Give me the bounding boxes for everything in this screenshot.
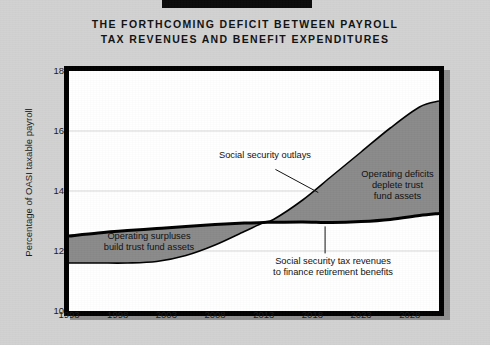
annotation-deficit-line-1: Operating deficits (361, 169, 433, 179)
annotation-social-security-outlays: Social security outlays (200, 150, 330, 161)
page-title-line-2: TAX REVENUES AND BENEFIT EXPENDITURES (0, 32, 490, 47)
x-tick-2013: 2013 (244, 309, 284, 320)
annotation-deficit-line-2: deplete trust (372, 180, 423, 190)
page-title-line-1: THE FORTHCOMING DEFICIT BETWEEN PAYROLL (92, 18, 398, 30)
y-tick-16: 16 (42, 126, 64, 135)
page-title: THE FORTHCOMING DEFICIT BETWEEN PAYROLL … (0, 17, 490, 47)
y-tick-14: 14 (42, 186, 64, 195)
annotation-surplus-line-2: build trust fund assets (104, 242, 194, 252)
annotation-deficit-line-3: fund assets (374, 191, 422, 201)
x-tick-2008: 2008 (195, 309, 235, 320)
y-axis-tick-labels: 1816141210 (40, 0, 64, 345)
annotation-revenues-line-1: Social security tax revenues (275, 256, 391, 266)
x-tick-1993: 1993 (49, 309, 89, 320)
y-tick-12: 12 (42, 246, 64, 255)
x-tick-1998: 1998 (98, 309, 138, 320)
leader-line-outlays (275, 169, 318, 192)
y-tick-18: 18 (42, 66, 64, 75)
x-axis-tick-labels: 19931998200320082013201820232028 (0, 309, 490, 323)
top-black-bar (162, 0, 312, 8)
x-tick-2018: 2018 (292, 309, 332, 320)
annotation-operating-surpluses: Operating surpluses build trust fund ass… (74, 231, 224, 253)
x-tick-2003: 2003 (146, 309, 186, 320)
x-tick-2028: 2028 (390, 309, 430, 320)
annotation-social-security-tax-revenues: Social security tax revenues to finance … (248, 256, 418, 278)
annotation-operating-deficits: Operating deficits deplete trust fund as… (345, 169, 450, 202)
annotation-surplus-line-1: Operating surpluses (107, 231, 190, 241)
annotation-outlays-text: Social security outlays (219, 150, 311, 160)
y-axis-title: Percentage of OASI taxable payroll (23, 93, 34, 273)
annotation-revenues-line-2: to finance retirement benefits (273, 267, 393, 277)
x-tick-2023: 2023 (341, 309, 381, 320)
